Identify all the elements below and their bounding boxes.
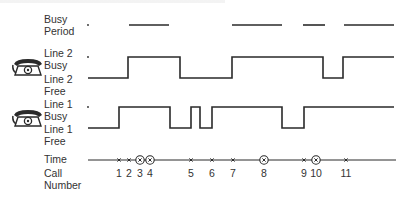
call-marker-circled (146, 156, 154, 164)
line1-waveform (88, 107, 394, 128)
call-marker-circled (260, 156, 268, 164)
call-number: 4 (147, 167, 153, 179)
call-number: 10 (310, 167, 322, 179)
call-marker-circled (136, 156, 144, 164)
call-number: 5 (188, 167, 194, 179)
call-markers (117, 156, 347, 164)
call-number: 11 (341, 167, 352, 179)
call-number: 6 (209, 167, 215, 179)
line2-waveform (88, 57, 394, 78)
call-number: 3 (137, 167, 143, 179)
timing-diagram: 1234567891011 (0, 0, 408, 197)
call-number: 1 (116, 167, 122, 179)
busy-period-reference-dot (87, 24, 89, 26)
line1-reference-dot (87, 106, 89, 108)
call-number: 8 (261, 167, 267, 179)
call-marker-circled (312, 156, 320, 164)
call-numbers: 1234567891011 (116, 167, 352, 179)
line2-reference-dot (87, 56, 89, 58)
call-number: 2 (126, 167, 132, 179)
call-number: 9 (301, 167, 307, 179)
call-number: 7 (230, 167, 236, 179)
